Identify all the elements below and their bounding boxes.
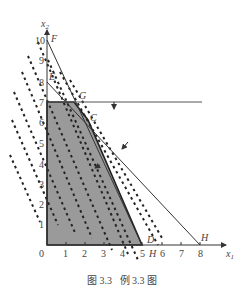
point-label-E: E — [48, 71, 55, 82]
arrow-diag-icon — [122, 142, 128, 149]
figure-title: 例 3.3 图 — [120, 275, 158, 286]
point-label-D: D — [146, 234, 155, 245]
point-label-G: G — [79, 90, 86, 101]
figure-number: 图 3.3 — [87, 275, 112, 286]
svg-text:7: 7 — [39, 97, 44, 108]
y-tick-labels: 1 2 3 4 5 6 7 8 9 10 — [35, 35, 45, 230]
svg-text:4: 4 — [39, 159, 44, 170]
svg-text:4: 4 — [120, 248, 125, 259]
point-label-H-axis: H — [148, 248, 157, 259]
svg-text:6: 6 — [39, 117, 44, 128]
svg-text:2: 2 — [39, 199, 44, 210]
point-label-H-top: H — [200, 232, 209, 243]
x-axis-label: x1 — [225, 248, 234, 261]
svg-text:3: 3 — [101, 248, 106, 259]
svg-text:6: 6 — [160, 248, 165, 259]
svg-text:1: 1 — [63, 248, 68, 259]
point-label-F: F — [50, 33, 58, 44]
y-axis-label: x2 — [40, 18, 49, 31]
svg-text:9: 9 — [39, 55, 44, 66]
svg-text:7: 7 — [179, 248, 184, 259]
svg-text:3: 3 — [39, 179, 44, 190]
x-tick-labels: 0 1 2 3 4 5 6 7 8 — [39, 248, 203, 259]
svg-text:8: 8 — [39, 77, 44, 88]
svg-text:2: 2 — [82, 248, 87, 259]
svg-text:5: 5 — [140, 248, 145, 259]
svg-text:0: 0 — [39, 248, 44, 259]
svg-text:10: 10 — [35, 35, 45, 46]
svg-text:8: 8 — [198, 248, 203, 259]
figure-caption: 图 3.3 例 3.3 图 — [0, 272, 244, 287]
svg-text:1: 1 — [39, 219, 44, 230]
point-label-C: C — [90, 112, 97, 123]
svg-text:5: 5 — [39, 138, 44, 149]
lp-diagram: 0 1 2 3 4 5 6 7 8 1 2 3 4 5 6 7 8 9 10 x… — [0, 0, 244, 299]
